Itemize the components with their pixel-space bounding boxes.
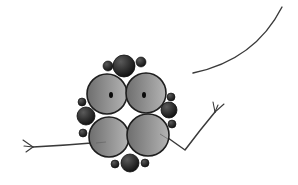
large-sphere-upper-left bbox=[87, 74, 127, 114]
dark-sphere-bottom bbox=[121, 154, 139, 172]
left-eye-icon bbox=[109, 92, 113, 98]
small-sphere bbox=[141, 159, 149, 167]
dark-spheres bbox=[77, 55, 177, 172]
small-sphere bbox=[103, 61, 113, 71]
curve-stroke bbox=[193, 7, 282, 73]
dark-sphere-left bbox=[77, 107, 95, 125]
large-sphere-lower-right bbox=[127, 114, 169, 156]
dark-sphere-right bbox=[161, 102, 177, 118]
small-sphere bbox=[167, 93, 175, 101]
small-sphere bbox=[78, 98, 86, 106]
large-sphere-upper-right bbox=[126, 73, 166, 113]
small-sphere bbox=[168, 120, 176, 128]
curve-line bbox=[193, 7, 282, 73]
small-sphere bbox=[79, 129, 87, 137]
large-sphere-lower-left bbox=[89, 117, 129, 157]
large-spheres bbox=[87, 73, 169, 157]
left-hand-finger bbox=[26, 147, 33, 152]
small-sphere bbox=[111, 160, 119, 168]
dark-sphere-top bbox=[113, 55, 135, 77]
small-sphere bbox=[136, 57, 146, 67]
right-hand-finger bbox=[213, 102, 215, 112]
right-eye-icon bbox=[142, 92, 146, 98]
illustration-canvas bbox=[0, 0, 298, 185]
molecule-character-illustration bbox=[0, 0, 298, 185]
